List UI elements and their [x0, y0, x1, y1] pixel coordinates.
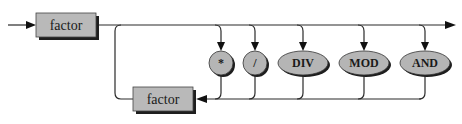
- branch-mul-up: [215, 75, 221, 99]
- branch-and-up: [419, 75, 425, 99]
- syntax-diagram: factor factor * / DIV: [0, 0, 462, 124]
- operator-and: AND: [400, 51, 452, 77]
- factor-box-loop: factor: [133, 87, 196, 114]
- branch-mod-up: [358, 75, 364, 99]
- branch-slash-up: [249, 75, 255, 99]
- branch-div-up: [297, 75, 303, 99]
- operator-div-label: DIV: [292, 56, 314, 70]
- return-arrow-icon: [196, 95, 207, 103]
- operator-mul: *: [209, 51, 235, 77]
- arrow-down-icon: [360, 42, 368, 51]
- entry-arrow-icon: [26, 21, 36, 29]
- operator-div: DIV: [278, 51, 330, 77]
- exit-arrow-icon: [445, 21, 456, 29]
- branch-mul-down: [215, 25, 221, 44]
- loop-left-rail: [115, 25, 133, 99]
- arrow-down-icon: [217, 42, 225, 51]
- arrow-down-icon: [251, 42, 259, 51]
- branch-mod-down: [358, 25, 364, 44]
- branch-slash-down: [249, 25, 255, 44]
- operator-mul-label: *: [218, 56, 224, 70]
- operator-mod: MOD: [339, 51, 391, 77]
- operator-slash: /: [243, 51, 269, 77]
- operator-slash-label: /: [252, 56, 257, 70]
- operator-and-label: AND: [412, 56, 438, 70]
- branch-and-down: [419, 25, 425, 44]
- arrow-down-icon: [421, 42, 429, 51]
- arrow-down-icon: [299, 42, 307, 51]
- operator-mod-label: MOD: [349, 56, 379, 70]
- factor-main-label: factor: [50, 18, 83, 33]
- branch-div-down: [297, 25, 303, 44]
- factor-loop-label: factor: [147, 92, 180, 107]
- factor-box-main: factor: [36, 13, 99, 40]
